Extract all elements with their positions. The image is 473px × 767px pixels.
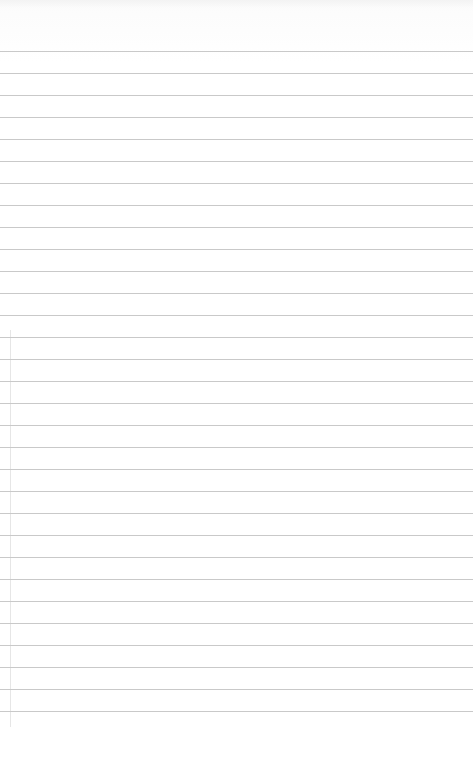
top-edge-shadow (0, 0, 473, 8)
ruled-line (0, 403, 473, 404)
ruled-line (0, 249, 473, 250)
ruled-line (0, 667, 473, 668)
ruled-line (0, 161, 473, 162)
ruled-line (0, 271, 473, 272)
ruled-line (0, 227, 473, 228)
ruled-line (0, 623, 473, 624)
ruled-line (0, 535, 473, 536)
ruled-line (0, 337, 473, 338)
ruled-line (0, 51, 473, 52)
ruled-line (0, 359, 473, 360)
ruled-line (0, 513, 473, 514)
ruled-line (0, 711, 473, 712)
ruled-line (0, 425, 473, 426)
ruled-line (0, 315, 473, 316)
ruled-line (0, 469, 473, 470)
ruled-line (0, 645, 473, 646)
ruled-line (0, 117, 473, 118)
ruled-line (0, 689, 473, 690)
ruled-line (0, 579, 473, 580)
ruled-line (0, 73, 473, 74)
ruled-line (0, 491, 473, 492)
ruled-line (0, 205, 473, 206)
ruled-line (0, 447, 473, 448)
ruled-line (0, 557, 473, 558)
ruled-line (0, 183, 473, 184)
ruled-line (0, 139, 473, 140)
ruled-line (0, 381, 473, 382)
ruled-line (0, 293, 473, 294)
ruled-line (0, 601, 473, 602)
lined-paper-sheet (0, 0, 473, 767)
ruled-line (0, 95, 473, 96)
